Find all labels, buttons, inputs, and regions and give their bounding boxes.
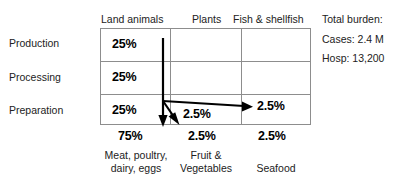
grid-line-row-2-3 [100, 94, 311, 95]
total-fish-shellfish: 2.5% [258, 130, 286, 143]
grid-line-right [310, 28, 311, 125]
cell-processing-land-animals: 25% [112, 71, 136, 84]
cell-production-land-animals: 25% [112, 38, 136, 51]
row-label-processing: Processing [9, 72, 61, 83]
grid-line-left [100, 28, 101, 125]
column-header-plants: Plants [192, 14, 221, 25]
grid-line-row-1-2 [100, 61, 311, 62]
cell-preparation-fish-shellfish: 2.5% [257, 100, 285, 113]
total-plants: 2.5% [188, 130, 216, 143]
burden-panel-hospitalizations: Hosp: 13,200 [322, 53, 384, 64]
grid-line-col-1-2 [170, 28, 171, 125]
grid-line-col-2-3 [241, 28, 242, 125]
burden-panel-cases: Cases: 2.4 M [322, 34, 384, 45]
cell-preparation-plants: 2.5% [183, 108, 211, 121]
total-land-animals: 75% [118, 130, 142, 143]
bottom-caption-fish-shellfish: Seafood [243, 162, 309, 175]
bottom-caption-plants: Fruit & Vegetables [172, 149, 240, 174]
attribution-diagram: Land animals Plants Fish & shellfish Pro… [0, 0, 396, 183]
bottom-caption-land-animals: Meat, poultry, dairy, eggs [96, 149, 176, 174]
arrow-diagonal-to-plants [163, 101, 180, 125]
row-label-production: Production [9, 38, 59, 49]
column-header-fish-shellfish: Fish & shellfish [233, 14, 304, 25]
arrow-vertical-flow [158, 38, 167, 127]
row-label-preparation: Preparation [9, 105, 63, 116]
column-header-land-animals: Land animals [101, 14, 163, 25]
burden-panel-title: Total burden: [322, 14, 383, 25]
grid-line-top [100, 28, 311, 29]
cell-preparation-land-animals: 25% [112, 104, 136, 117]
grid-line-bottom [100, 124, 311, 125]
